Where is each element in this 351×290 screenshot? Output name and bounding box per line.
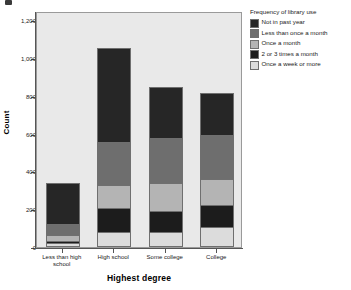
plot-area [36,12,242,248]
legend-label: Once a month [262,39,301,46]
legend-swatch [250,50,259,59]
legend: Frequency of library use Not in past yea… [250,8,350,71]
y-tick-label: 400 [10,169,36,175]
bar-segment[interactable] [149,138,183,183]
bar-segment[interactable] [46,224,80,235]
legend-swatch [250,19,259,28]
y-axis-tick: 1,200 [0,21,36,22]
bar-segment[interactable] [200,135,234,179]
y-axis-tick: 0 [0,248,36,249]
x-tick-mark [62,249,63,253]
x-axis-line [36,248,243,249]
legend-item[interactable]: Once a month [250,39,350,49]
bar-segment[interactable] [97,48,131,142]
y-axis-tick: 400 [0,172,36,173]
legend-label: 2 or 3 times a month [262,50,318,57]
x-tick-label: College [187,254,245,261]
legend-item[interactable]: Once a week or more [250,60,350,70]
x-tick-mark [113,249,114,253]
bar-segment[interactable] [149,87,183,138]
legend-item[interactable]: 2 or 3 times a month [250,50,350,60]
bar-segment[interactable] [97,185,131,208]
y-tick-label: 1,000 [10,56,36,62]
y-axis-tick: 200 [0,210,36,211]
y-axis-tick: 800 [0,97,36,98]
bars-layer [37,13,241,247]
x-tick-label: High school [84,254,142,261]
bar-segment[interactable] [200,93,234,135]
legend-label: Once a week or more [262,60,321,67]
x-tick-mark [216,249,217,253]
bar-segment[interactable] [200,227,234,247]
y-tick-label: 800 [10,94,36,100]
bar-segment[interactable] [149,232,183,247]
stacked-bar-chart-figure: Count 02004006008001,0001,200 Less than … [0,0,351,290]
y-axis-tick: 600 [0,135,36,136]
legend-item[interactable]: Not in past year [250,18,350,28]
y-tick-label: 600 [10,132,36,138]
y-axis-tick: 1,000 [0,59,36,60]
y-tick-label: 0 [10,245,36,251]
legend-label: Not in past year [262,18,305,25]
y-tick-label: 1,200 [10,18,36,24]
bar-segment[interactable] [200,205,234,226]
x-tick-label: Some college [136,254,194,261]
clipped-marker-artifact [5,0,12,5]
y-axis-title: Count [2,93,11,153]
legend-swatch [250,29,259,38]
bar-segment[interactable] [97,232,131,247]
legend-label: Less than once a month [262,29,328,36]
bar-segment[interactable] [97,208,131,232]
stacked-bar[interactable] [149,87,183,247]
bar-segment[interactable] [149,183,183,211]
legend-swatch [250,40,259,49]
bar-segment[interactable] [97,142,131,185]
legend-items: Not in past yearLess than once a monthOn… [250,18,350,70]
stacked-bar[interactable] [46,183,80,247]
legend-title: Frequency of library use [250,8,350,16]
stacked-bar[interactable] [97,48,131,247]
x-tick-mark [165,249,166,253]
bar-segment[interactable] [46,183,80,224]
stacked-bar[interactable] [200,93,234,247]
bar-segment[interactable] [46,243,80,247]
legend-item[interactable]: Less than once a month [250,29,350,39]
legend-swatch [250,61,259,70]
bar-segment[interactable] [200,179,234,205]
y-tick-label: 200 [10,207,36,213]
x-axis-title: Highest degree [36,273,242,283]
bar-segment[interactable] [149,211,183,232]
x-tick-label: Less than high school [33,254,91,268]
